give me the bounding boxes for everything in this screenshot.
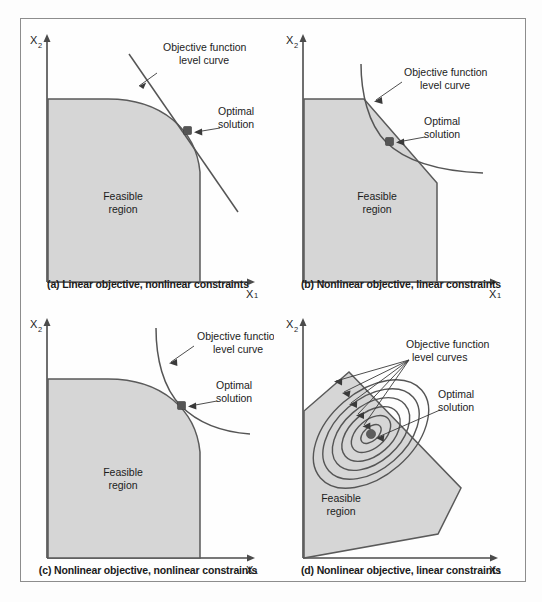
- level-curve-label-line1-b: Objective function: [404, 66, 488, 78]
- panel-b-caption-wrap: (b) Nonlinear objective, linear constrai…: [278, 274, 524, 292]
- y-axis-arrow-c: [44, 318, 51, 326]
- x-axis-label-sub-a: 1: [254, 291, 258, 298]
- level-curves-label-line2-d: level curves: [412, 351, 467, 363]
- y-axis-arrow-a: [44, 34, 51, 42]
- optimal-label-line2-c: solution: [216, 392, 252, 404]
- panel-a: Objective function level curve Optimal s…: [22, 20, 274, 298]
- y-axis-label-sub-d: 2: [294, 325, 298, 334]
- feasible-label-line2-d: region: [326, 505, 355, 517]
- panel-c: Objective function level curve Optimal s…: [22, 306, 274, 574]
- level-curve-leader-c: [169, 346, 194, 366]
- optimal-label-line2-b: solution: [424, 128, 460, 140]
- y-axis-label-b: X 2: [286, 34, 298, 50]
- level-curve-label-line1-a: Objective function: [163, 41, 247, 53]
- panel-a-caption: (a) Linear objective, nonlinear constrai…: [47, 278, 249, 290]
- level-curve-label-line2-a: level curve: [179, 54, 229, 66]
- optimal-solution-leader-a: [194, 128, 220, 136]
- optimal-label-line2-d: solution: [438, 401, 474, 413]
- y-axis-label-d: X 2: [286, 318, 298, 334]
- level-curves-label-line1-d: Objective function: [406, 338, 490, 350]
- optimal-solution-marker-d: [366, 429, 375, 438]
- y-axis-label-sub-c: 2: [38, 325, 42, 334]
- optimal-solution-marker-c: [178, 402, 186, 410]
- feasible-label-line1-d: Feasible: [321, 492, 361, 504]
- optimal-label-line1-d: Optimal: [438, 388, 474, 400]
- panel-d-caption-wrap: (d) Nonlinear objective, linear constrai…: [278, 560, 524, 578]
- y-axis-label-base-b: X: [286, 34, 294, 46]
- y-axis-arrow-d: [300, 318, 307, 326]
- y-axis-label-a: X 2: [30, 34, 42, 50]
- y-axis-label-base-d: X: [286, 318, 294, 330]
- optimal-solution-marker-a: [184, 127, 192, 135]
- panel-a-caption-wrap: (a) Linear objective, nonlinear constrai…: [22, 274, 274, 292]
- y-axis-label-sub-b: 2: [294, 41, 298, 50]
- level-curve-label-line2-c: level curve: [213, 343, 263, 355]
- feasible-label-line2-c: region: [108, 479, 137, 491]
- feasible-label-line2-b: region: [362, 203, 391, 215]
- feasible-label-line2-a: region: [108, 203, 137, 215]
- panel-b-caption: (b) Nonlinear objective, linear constrai…: [301, 278, 501, 290]
- feasible-label-line1-a: Feasible: [103, 190, 143, 202]
- level-curve-label-line2-b: level curve: [420, 79, 470, 91]
- optimal-solution-marker-b: [386, 138, 394, 146]
- level-curve-label-line1-c: Objective function: [197, 330, 274, 342]
- optimal-solution-leader-c: [188, 401, 217, 410]
- optimal-label-line1-a: Optimal: [218, 105, 254, 117]
- figure-root: Objective function level curve Optimal s…: [0, 0, 542, 602]
- feasible-label-line1-c: Feasible: [103, 466, 143, 478]
- panel-d-caption: (d) Nonlinear objective, linear constrai…: [301, 564, 501, 576]
- panel-c-caption: (c) Nonlinear objective, nonlinear const…: [39, 564, 257, 576]
- optimal-label-line1-c: Optimal: [216, 379, 252, 391]
- y-axis-label-base-a: X: [30, 34, 38, 46]
- optimal-label-line1-b: Optimal: [424, 115, 460, 127]
- x-axis-label-sub-b: 1: [497, 291, 501, 298]
- panel-b: Objective function level curve Optimal s…: [278, 20, 524, 298]
- y-axis-arrow-b: [300, 34, 307, 42]
- optimal-label-line2-a: solution: [218, 118, 254, 130]
- panel-d: Objective function level curves Optimal …: [278, 306, 524, 574]
- y-axis-label-sub-a: 2: [38, 41, 42, 50]
- level-curve-leader-b: [374, 82, 402, 104]
- y-axis-label-base-c: X: [30, 318, 38, 330]
- y-axis-label-c: X 2: [30, 318, 42, 334]
- feasible-label-line1-b: Feasible: [357, 190, 397, 202]
- panel-c-caption-wrap: (c) Nonlinear objective, nonlinear const…: [22, 560, 274, 578]
